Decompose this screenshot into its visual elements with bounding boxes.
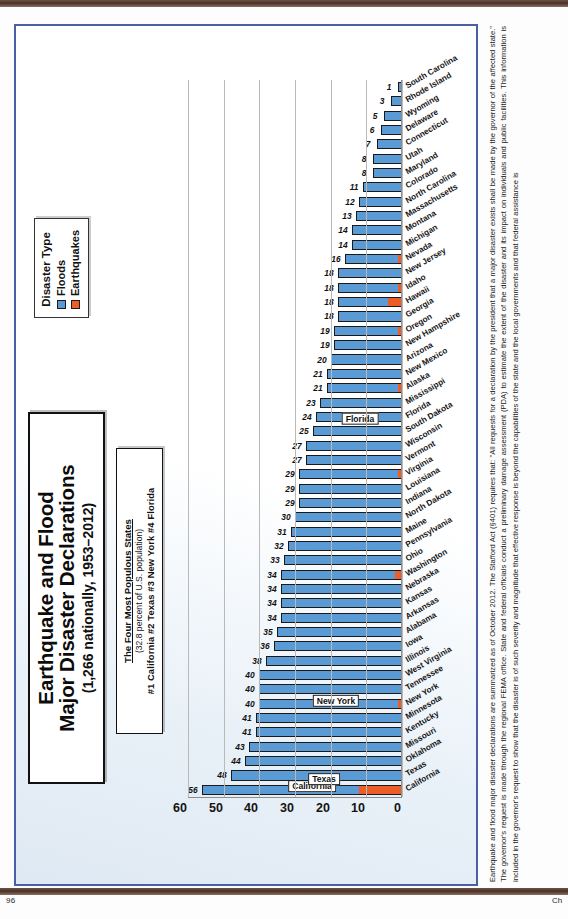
bar-segment-floods — [338, 311, 402, 321]
bar-value-label: 18 — [324, 268, 333, 278]
bar-segment-floods — [373, 154, 402, 164]
gridline — [331, 80, 332, 797]
bar-stack — [295, 512, 402, 522]
legend-swatch-floods — [57, 300, 66, 309]
bar-value-label: 41 — [242, 713, 251, 723]
bar-segment-floods — [352, 240, 402, 250]
value-axis-tick: 10 — [351, 801, 365, 815]
bar-segment-earthquakes — [388, 297, 402, 307]
bar-value-label: 34 — [267, 613, 276, 623]
bar-value-label: 34 — [267, 598, 276, 608]
bar-segment-floods — [338, 283, 399, 293]
bar-stack — [373, 168, 402, 178]
value-axis-tick: 40 — [244, 801, 258, 815]
bar-value-label: 29 — [285, 469, 294, 479]
figure-caption-text: Earthquake and flood major disaster decl… — [487, 26, 561, 882]
value-axis-tick: 60 — [173, 801, 187, 815]
bar-stack — [334, 326, 402, 336]
bar-stack — [345, 254, 402, 264]
bar-segment-floods — [284, 555, 402, 565]
bar-value-label: 24 — [303, 412, 312, 422]
figure-title-line1: Earthquake and Flood — [35, 424, 56, 772]
bar-stack — [306, 441, 402, 451]
bar-stack — [299, 498, 402, 508]
bar-segment-floods — [266, 656, 402, 666]
bar-segment-floods — [281, 613, 402, 623]
bar-value-label: 20 — [317, 355, 326, 365]
figure-title-line2: Major Disaster Declarations — [56, 424, 77, 772]
bar-value-label: 23 — [306, 398, 315, 408]
bar-segment-floods — [306, 441, 402, 451]
bar-value-label: 21 — [313, 369, 322, 379]
bar-value-label: 16 — [331, 254, 340, 264]
bar-stack — [356, 211, 402, 221]
bar-stack — [249, 742, 402, 752]
bar-segment-floods — [334, 340, 402, 350]
bar-segment-floods — [384, 111, 402, 121]
page-gutter-top — [0, 0, 568, 7]
bar-stack — [373, 154, 402, 164]
legend-item-floods: Floods — [55, 230, 67, 309]
bar-value-label: 11 — [349, 182, 358, 192]
bar-stack — [363, 182, 402, 192]
bar-value-label: 27 — [292, 455, 301, 465]
bar-segment-floods — [256, 727, 402, 737]
note-heading: The Four Most Populous States — [122, 457, 133, 725]
bar-stack — [256, 713, 402, 723]
bar-stack — [281, 613, 402, 623]
bar-value-label: 21 — [313, 383, 322, 393]
bar-stack — [281, 598, 402, 608]
bar-value-label: 56 — [189, 785, 198, 795]
bar-stack — [338, 283, 402, 293]
gridline — [366, 80, 367, 797]
value-axis-tick: 30 — [280, 801, 294, 815]
value-axis-tick: 20 — [316, 801, 330, 815]
bar-segment-floods — [373, 168, 402, 178]
scanned-page: 96 Ch Earthquake and Flood Major Disaste… — [0, 0, 568, 919]
bar-stack — [327, 383, 402, 393]
bar-segment-floods — [299, 484, 402, 494]
bar-value-label: 29 — [285, 498, 294, 508]
plot-inner: 56CaliforniaCalifornia48TexasTexas44Okla… — [188, 80, 402, 798]
bar-value-label: 40 — [246, 684, 255, 694]
bar-segment-floods — [327, 369, 402, 379]
bar-stack — [313, 426, 402, 436]
bar-value-label: 3 — [380, 96, 385, 106]
figure-caption: Earthquake and flood major disaster decl… — [486, 26, 562, 882]
value-axis-tick: 0 — [394, 801, 401, 815]
gridline — [224, 80, 225, 797]
bar-segment-floods — [338, 297, 388, 307]
bar-value-label: 40 — [246, 670, 255, 680]
bar-stack — [245, 756, 402, 766]
bar-value-label: 19 — [321, 340, 330, 350]
bar-segment-floods — [299, 469, 399, 479]
bar-stack — [377, 139, 402, 149]
bar-value-label: 48 — [217, 770, 226, 780]
bar-value-label: 36 — [260, 641, 269, 651]
bar-stack — [327, 369, 402, 379]
bar-segment-floods — [281, 584, 402, 594]
bar-stack — [306, 455, 402, 465]
bar-stack — [284, 555, 402, 565]
page-number: 96 — [6, 896, 16, 905]
bar-value-label: 19 — [321, 326, 330, 336]
bar-value-label: 33 — [271, 555, 280, 565]
legend-label-floods: Floods — [55, 260, 67, 296]
bar-value-label: 25 — [299, 426, 308, 436]
bar-segment-floods — [306, 455, 402, 465]
bar-stack — [291, 527, 402, 537]
bar-segment-floods — [381, 125, 402, 135]
populous-states-note: The Four Most Populous States (32.8 perc… — [116, 448, 163, 734]
legend-label-earthquakes: Earthquakes — [69, 230, 81, 296]
legend-swatch-earthquakes — [71, 300, 80, 309]
note-subheading: (32.8 percent of U.S. population) — [134, 457, 144, 725]
figure-canvas: Earthquake and Flood Major Disaster Decl… — [16, 26, 476, 884]
bar-value-label: 18 — [324, 297, 333, 307]
bar-stack — [338, 268, 402, 278]
page-gutter-bottom — [0, 888, 568, 895]
chart-legend: Disaster Type Floods Earthquakes — [34, 218, 89, 318]
gridline — [259, 80, 260, 797]
legend-item-earthquakes: Earthquakes — [69, 230, 81, 309]
bar-segment-floods — [352, 225, 402, 235]
bar-value-label: 6 — [369, 125, 374, 135]
